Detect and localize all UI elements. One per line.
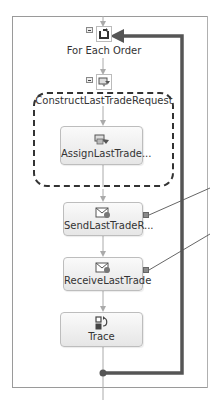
receive-label: ReceiveLastTrade [64,275,142,286]
send-message-icon [95,207,111,219]
assign-activity[interactable]: AssignLastTrade... [60,126,143,165]
for-each-label: For Each Order [67,45,142,56]
send-port-link [149,188,210,215]
assign-icon [94,133,110,147]
receive-message-icon [95,262,111,274]
loop-start-dot [100,370,107,377]
construct-node[interactable] [96,74,112,90]
assign-label: AssignLastTrade... [61,148,142,159]
trace-activity[interactable]: Trace [60,312,143,347]
loop-icon [97,27,111,41]
receive-port-connector[interactable] [143,267,149,273]
receive-port-link [149,234,210,270]
send-port-connector[interactable] [143,212,149,218]
trace-label: Trace [61,331,142,342]
receive-activity[interactable]: ReceiveLastTrade [63,257,143,291]
for-each-node[interactable] [96,26,112,42]
send-label: SendLastTradeR... [64,220,142,231]
construct-message-icon [97,75,111,89]
workflow-canvas: For Each Order ConstructLastTradeRequest… [0,0,220,400]
construct-label: ConstructLastTradeRequest [35,95,172,106]
collapse-toggle-for-each[interactable] [86,27,93,33]
collapse-toggle-construct[interactable] [86,77,93,83]
trace-icon [95,316,109,330]
send-activity[interactable]: SendLastTradeR... [63,202,143,236]
